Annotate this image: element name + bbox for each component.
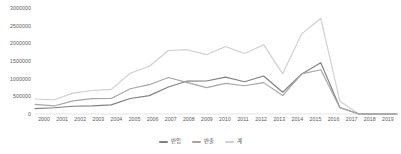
legend-swatch-icon — [192, 141, 201, 142]
x-axis-tick-label: 2007 — [162, 116, 180, 128]
y-axis-tick-label: 2000000 — [10, 40, 31, 46]
x-axis-tick-label: 2012 — [252, 116, 270, 128]
series-line-반출 — [35, 70, 397, 114]
chart-legend: 반입반출계 — [0, 135, 401, 149]
series-group — [35, 18, 397, 114]
x-axis-tick-label: 2018 — [361, 116, 379, 128]
x-axis-tick-label: 2000 — [35, 116, 53, 128]
y-axis-tick-label: 0 — [28, 111, 31, 117]
legend-swatch-icon — [225, 141, 234, 142]
y-axis-tick-label: 3000000 — [10, 5, 31, 11]
y-axis-tick-label: 2500000 — [10, 23, 31, 29]
y-axis-tick-label: 1500000 — [10, 58, 31, 64]
y-axis-tick-label: 500000 — [13, 93, 31, 99]
x-axis-tick-label: 2009 — [198, 116, 216, 128]
legend-item-반출[interactable]: 반출 — [192, 139, 214, 144]
x-axis-tick-label: 2010 — [216, 116, 234, 128]
x-axis-tick-label: 2005 — [125, 116, 143, 128]
legend-item-label: 계 — [237, 139, 242, 144]
x-axis-tick-label: 2006 — [144, 116, 162, 128]
x-axis-tick-label: 2011 — [234, 116, 252, 128]
x-axis-tick-label: 2004 — [107, 116, 125, 128]
x-axis-tick-label: 2001 — [53, 116, 71, 128]
x-axis-tick-label: 2008 — [180, 116, 198, 128]
x-axis-tick-label: 2003 — [89, 116, 107, 128]
legend-item-label: 반출 — [204, 139, 214, 144]
y-axis-tick-label: 1000000 — [10, 76, 31, 82]
x-axis-tick-label: 2002 — [71, 116, 89, 128]
plot-area — [35, 8, 397, 114]
x-axis-tick-label: 2017 — [343, 116, 361, 128]
legend-item-반입[interactable]: 반입 — [159, 139, 181, 144]
plot-svg — [35, 8, 397, 114]
x-axis-tick-label: 2015 — [306, 116, 324, 128]
legend-item-계[interactable]: 계 — [225, 139, 242, 144]
legend-swatch-icon — [159, 141, 168, 142]
line-chart: 0500000100000015000002000000250000030000… — [0, 0, 401, 154]
x-axis: 2000200120022003200420052006200720082009… — [35, 116, 397, 128]
x-axis-tick-label: 2016 — [325, 116, 343, 128]
series-line-반입 — [35, 63, 397, 114]
legend-item-label: 반입 — [171, 139, 181, 144]
x-axis-tick-label: 2014 — [288, 116, 306, 128]
x-axis-tick-label: 2013 — [270, 116, 288, 128]
y-axis: 0500000100000015000002000000250000030000… — [0, 0, 31, 154]
series-line-계 — [35, 18, 397, 114]
x-axis-tick-label: 2019 — [379, 116, 397, 128]
